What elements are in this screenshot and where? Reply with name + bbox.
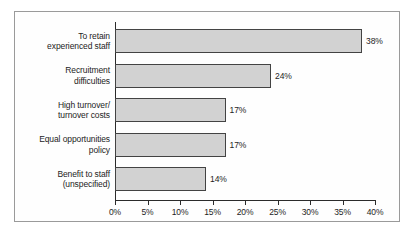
bar[interactable]	[115, 64, 271, 88]
category-label: Equal opportunitiespolicy	[0, 134, 110, 155]
bar-row: Equal opportunitiespolicy17%	[115, 133, 375, 157]
bar-row: To retainexperienced staff38%	[115, 29, 375, 53]
bar-value-label: 17%	[230, 140, 247, 150]
x-tick-label: 40%	[355, 207, 395, 217]
x-tick-mark	[213, 201, 214, 205]
x-tick-mark	[310, 201, 311, 205]
x-tick-mark	[180, 201, 181, 205]
bar-value-label: 14%	[210, 174, 227, 184]
x-tick-mark	[278, 201, 279, 205]
bar-value-label: 17%	[230, 105, 247, 115]
plot-area: 0%5%10%15%20%25%30%35%40% To retainexper…	[115, 22, 375, 200]
x-tick-mark	[375, 201, 376, 205]
bar[interactable]	[115, 133, 226, 157]
bar-row: High turnover/turnover costs17%	[115, 98, 375, 122]
x-tick-mark	[148, 201, 149, 205]
category-label: Recruitmentdifficulties	[0, 65, 110, 86]
category-label: High turnover/turnover costs	[0, 100, 110, 121]
bar[interactable]	[115, 98, 226, 122]
bar-row: Benefit to staff(unspecified)14%	[115, 167, 375, 191]
category-label: To retainexperienced staff	[0, 31, 110, 52]
bar-value-label: 38%	[366, 36, 383, 46]
bar[interactable]	[115, 29, 362, 53]
chart-figure: 0%5%10%15%20%25%30%35%40% To retainexper…	[14, 11, 400, 222]
bar[interactable]	[115, 167, 206, 191]
x-tick-mark	[245, 201, 246, 205]
bar-row: Recruitmentdifficulties24%	[115, 64, 375, 88]
x-tick-mark	[343, 201, 344, 205]
x-tick-mark	[115, 201, 116, 205]
category-label: Benefit to staff(unspecified)	[0, 169, 110, 190]
bar-value-label: 24%	[275, 71, 292, 81]
